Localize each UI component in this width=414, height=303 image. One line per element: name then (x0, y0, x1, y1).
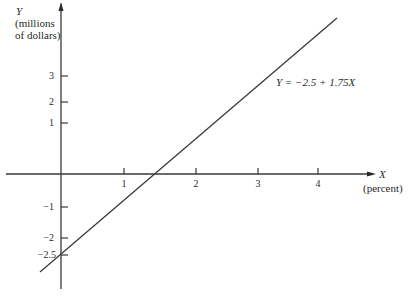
x-axis-label: X (379, 168, 386, 180)
y-axis-unit-line2: of dollars) (15, 29, 61, 41)
x-tick-label: 4 (316, 178, 321, 189)
equation-annotation: Y = −2.5 + 1.75X (276, 76, 355, 88)
x-axis-unit: (percent) (363, 182, 403, 194)
y-tick-label: −2.5 (34, 249, 56, 260)
y-tick-label: −2 (32, 232, 54, 243)
y-tick-label: 3 (32, 70, 54, 81)
y-axis-arrow-icon (59, 2, 64, 11)
regression-line (40, 18, 337, 272)
x-tick-label: 1 (122, 178, 127, 189)
y-tick-label: 2 (32, 96, 54, 107)
chart-canvas (0, 0, 414, 303)
y-axis-unit-line1: (millions (15, 17, 55, 29)
x-tick-label: 3 (256, 178, 261, 189)
x-axis-arrow-icon (367, 172, 376, 177)
y-tick-label: 1 (32, 117, 54, 128)
y-axis-label: Y (16, 5, 22, 17)
y-tick-label: −1 (32, 201, 54, 212)
x-tick-label: 2 (194, 178, 199, 189)
x-ticks (124, 168, 318, 174)
y-ticks (61, 76, 68, 255)
